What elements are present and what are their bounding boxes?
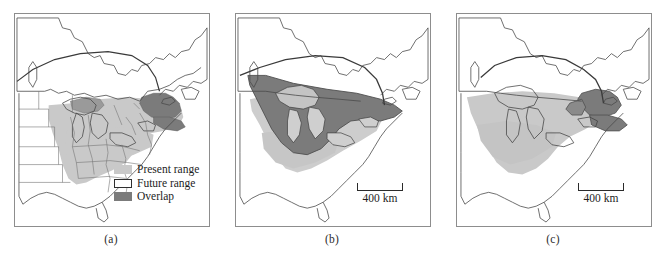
legend-swatch-overlap [114, 192, 132, 201]
legend-label-overlap: Overlap [137, 190, 174, 203]
panel-label-c: (c) [442, 233, 664, 245]
legend-item-present-range: Present range [114, 163, 210, 177]
scale-bar-label-c: 400 km [570, 192, 632, 204]
legend-label-future-range: Future range [137, 177, 195, 190]
scale-bar-b: 400 km [349, 183, 411, 204]
scale-bar-mark-b [357, 183, 403, 191]
panel-label-a: (a) [0, 233, 222, 245]
legend-swatch-future-range [114, 179, 132, 188]
panel-label-b: (b) [221, 233, 443, 245]
panel-a: Present range Future range Overlap (a) [0, 0, 222, 259]
panel-b: 400 km (b) [221, 0, 443, 259]
figure-map-series: Present range Future range Overlap (a) [0, 0, 664, 259]
legend-label-present-range: Present range [137, 163, 199, 176]
legend-swatch-present-range [114, 165, 132, 174]
legend-item-future-range: Future range [114, 177, 210, 191]
scale-bar-label-b: 400 km [349, 192, 411, 204]
scale-bar-c: 400 km [570, 183, 632, 204]
legend: Present range Future range Overlap [114, 163, 210, 204]
panel-c: 400 km (c) [442, 0, 664, 259]
scale-bar-mark-c [578, 183, 624, 191]
legend-item-overlap: Overlap [114, 190, 210, 204]
